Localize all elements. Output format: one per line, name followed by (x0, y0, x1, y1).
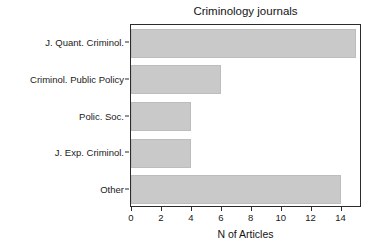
bar-band (131, 171, 360, 207)
x-tick-mark (191, 207, 192, 211)
x-tick-label: 6 (218, 212, 223, 223)
x-tick-label: 0 (128, 212, 133, 223)
bar-band (131, 25, 360, 62)
y-tick-mark (125, 115, 129, 116)
y-tick-label: Criminol. Public Policy (0, 73, 124, 84)
y-tick-label: J. Exp. Criminol. (0, 147, 124, 158)
x-tick-label: 2 (158, 212, 163, 223)
bar-chart-figure: Criminology journals J. Quant. Criminol.… (0, 0, 376, 250)
x-tick-mark (251, 207, 252, 211)
x-tick-label: 10 (275, 212, 286, 223)
y-tick-label: J. Quant. Criminol. (0, 37, 124, 48)
y-tick-label: Polic. Soc. (0, 110, 124, 121)
bar-band (131, 135, 360, 172)
x-tick-label: 8 (248, 212, 253, 223)
y-tick-mark (125, 78, 129, 79)
x-tick-mark (221, 207, 222, 211)
x-tick-label: 14 (335, 212, 346, 223)
chart-title: Criminology journals (130, 4, 361, 19)
x-tick-label: 4 (188, 212, 193, 223)
bar-band (131, 98, 360, 135)
x-axis-title: N of Articles (130, 228, 361, 241)
x-tick-mark (341, 207, 342, 211)
bar[interactable] (131, 29, 356, 58)
bar[interactable] (131, 102, 191, 131)
bar[interactable] (131, 175, 341, 204)
y-tick-label: Other (0, 183, 124, 194)
x-axis: 02468101214 (130, 207, 361, 227)
plot-area (130, 24, 361, 207)
bar[interactable] (131, 65, 221, 94)
y-axis: J. Quant. Criminol.Criminol. Public Poli… (0, 24, 124, 207)
bar[interactable] (131, 139, 191, 168)
x-tick-mark (131, 207, 132, 211)
x-tick-mark (161, 207, 162, 211)
y-tick-mark (125, 152, 129, 153)
x-tick-mark (311, 207, 312, 211)
x-tick-mark (281, 207, 282, 211)
x-tick-label: 12 (305, 212, 316, 223)
y-tick-mark (125, 188, 129, 189)
y-tick-mark (125, 42, 129, 43)
bar-band (131, 62, 360, 99)
